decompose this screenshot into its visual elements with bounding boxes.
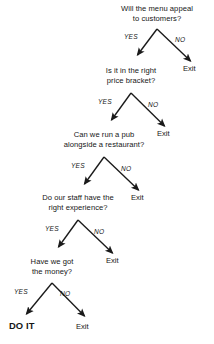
arrow-q5-no bbox=[52, 283, 85, 316]
decision-node-q5: Have we got the money? bbox=[31, 257, 74, 276]
branch-label-q4-no: NO bbox=[94, 228, 104, 235]
branch-label-q3-yes: YES bbox=[71, 162, 85, 169]
decision-node-q3-line2: alongside a restaurant? bbox=[64, 140, 145, 150]
arrow-q4-no bbox=[78, 220, 113, 253]
branch-label-q2-no: NO bbox=[148, 101, 158, 108]
decision-node-q4-line2: right experience? bbox=[42, 203, 113, 213]
decision-node-q2-line1: Is it in the right bbox=[106, 66, 156, 76]
decision-node-q1-line2: to customers? bbox=[121, 14, 193, 24]
arrow-q3-no bbox=[104, 157, 139, 190]
branch-label-q2-yes: YES bbox=[98, 98, 112, 105]
branch-label-q5-yes: YES bbox=[14, 288, 28, 295]
branch-label-q5-no: NO bbox=[60, 290, 70, 297]
decision-node-q3: Can we run a pub alongside a restaurant? bbox=[64, 130, 145, 149]
branch-label-q3-no: NO bbox=[121, 165, 131, 172]
arrow-q1-yes bbox=[138, 29, 158, 55]
terminal-exit-1: Exit bbox=[183, 64, 196, 73]
decision-node-q4-line1: Do our staff have the bbox=[42, 193, 113, 203]
decision-node-q1-line1: Will the menu appeal bbox=[121, 4, 193, 14]
decision-node-q1: Will the menu appeal to customers? bbox=[121, 4, 193, 23]
branch-label-q4-yes: YES bbox=[45, 225, 59, 232]
decision-flowchart: Will the menu appeal to customers? YES N… bbox=[0, 0, 214, 344]
terminal-exit-5: Exit bbox=[76, 322, 89, 331]
terminal-do-it: DO IT bbox=[9, 320, 35, 331]
decision-node-q2: Is it in the right price bracket? bbox=[106, 66, 156, 85]
arrow-q2-yes bbox=[112, 93, 132, 120]
arrow-q5-yes bbox=[27, 283, 53, 314]
arrow-q3-yes bbox=[85, 157, 105, 184]
arrow-q4-yes bbox=[59, 220, 79, 247]
decision-node-q5-line1: Have we got bbox=[31, 257, 74, 267]
terminal-exit-2: Exit bbox=[157, 129, 170, 138]
decision-node-q3-line1: Can we run a pub bbox=[64, 130, 145, 140]
branch-label-q1-yes: YES bbox=[124, 33, 138, 40]
decision-node-q2-line2: price bracket? bbox=[106, 76, 156, 86]
branch-label-q1-no: NO bbox=[175, 36, 185, 43]
decision-node-q4: Do our staff have the right experience? bbox=[42, 193, 113, 212]
arrow-q1-no bbox=[157, 29, 191, 61]
arrow-q2-no bbox=[131, 93, 165, 126]
decision-node-q5-line2: the money? bbox=[31, 267, 74, 277]
terminal-exit-3: Exit bbox=[131, 193, 144, 202]
flowchart-arrows-layer bbox=[0, 0, 214, 344]
terminal-exit-4: Exit bbox=[106, 256, 119, 265]
